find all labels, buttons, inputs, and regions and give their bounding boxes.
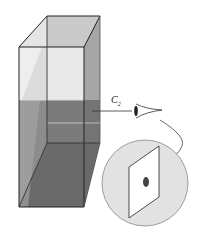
c2-label: C2 [111, 94, 121, 107]
column-diagram [0, 0, 202, 241]
glass-column [19, 16, 100, 207]
label-subscript: 2 [118, 101, 121, 107]
eye-icon [134, 104, 162, 118]
diagram-canvas: C2 [0, 0, 202, 241]
spot [143, 177, 149, 187]
magnifier-circle [102, 140, 188, 226]
label-main: C [111, 94, 118, 105]
